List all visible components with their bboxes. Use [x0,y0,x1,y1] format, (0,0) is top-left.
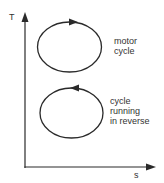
motor-cycle-label: motor cycle [114,36,137,56]
reverse-cycle-loop [40,85,103,139]
y-axis-label: T [9,12,15,22]
x-axis-arrow-icon [146,164,156,171]
reverse-cycle-label: cycle running in reverse [110,96,150,126]
y-axis [22,12,29,168]
clockwise-arrow-icon [69,19,78,26]
motor-cycle-loop [38,19,102,73]
ts-diagram [0,0,164,183]
counterclockwise-arrow-icon [70,85,79,92]
x-axis-label: s [134,170,139,180]
y-axis-arrow-icon [22,12,29,22]
